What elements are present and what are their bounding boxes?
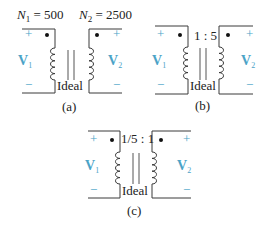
primary-coil-icon bbox=[116, 152, 121, 184]
polarity-dot-icon bbox=[110, 138, 114, 142]
v1-label: V1 bbox=[152, 53, 166, 70]
v2-minus: − bbox=[246, 77, 253, 92]
polarity-dot-icon bbox=[45, 33, 49, 37]
secondary-coil-icon bbox=[219, 47, 224, 79]
caption-a: (a) bbox=[62, 99, 76, 114]
caption-b: (b) bbox=[195, 98, 210, 113]
turns-ratio-label: 1/5 : 1 bbox=[121, 131, 154, 146]
v2-plus: + bbox=[246, 26, 253, 41]
turns-ratio-label: 1 : 5 bbox=[194, 28, 217, 43]
primary-coil-icon bbox=[184, 47, 189, 79]
secondary-coil-icon bbox=[152, 152, 157, 184]
v1-label: V1 bbox=[18, 53, 32, 70]
v2-plus: + bbox=[183, 131, 190, 146]
v2-label: V2 bbox=[108, 53, 122, 70]
v2-label: V2 bbox=[177, 158, 191, 175]
secondary-coil-icon bbox=[89, 48, 94, 80]
panel-b: 1 : 5 Ideal + − V1 + − V2 (b) bbox=[152, 26, 255, 113]
v1-minus: − bbox=[157, 77, 164, 92]
transformer-diagrams: N1 = 500 N2 = 2500 Ideal + − V1 + − V2 (… bbox=[0, 0, 270, 229]
v2-label: V2 bbox=[241, 53, 255, 70]
primary-coil-icon bbox=[51, 48, 56, 80]
v2-plus: + bbox=[113, 26, 120, 41]
ideal-label: Ideal bbox=[122, 183, 148, 198]
v2-minus: − bbox=[183, 182, 190, 197]
v1-minus: − bbox=[90, 182, 97, 197]
panel-c: 1/5 : 1 Ideal + − V1 + − V2 (c) bbox=[85, 131, 191, 218]
ideal-label: Ideal bbox=[57, 78, 83, 93]
v2-minus: − bbox=[113, 77, 120, 92]
v1-plus: + bbox=[157, 26, 164, 41]
n2-label: N2 = 2500 bbox=[78, 7, 132, 24]
v1-minus: − bbox=[25, 77, 32, 92]
polarity-dot-icon bbox=[178, 33, 182, 37]
polarity-dot-icon bbox=[159, 138, 163, 142]
ideal-label: Ideal bbox=[190, 78, 216, 93]
v1-plus: + bbox=[25, 26, 32, 41]
polarity-dot-icon bbox=[226, 33, 230, 37]
n1-label: N1 = 500 bbox=[16, 7, 64, 24]
polarity-dot-icon bbox=[95, 33, 99, 37]
caption-c: (c) bbox=[127, 203, 141, 218]
v1-label: V1 bbox=[85, 158, 99, 175]
panel-a: N1 = 500 N2 = 2500 Ideal + − V1 + − V2 (… bbox=[16, 7, 132, 114]
v1-plus: + bbox=[90, 131, 97, 146]
